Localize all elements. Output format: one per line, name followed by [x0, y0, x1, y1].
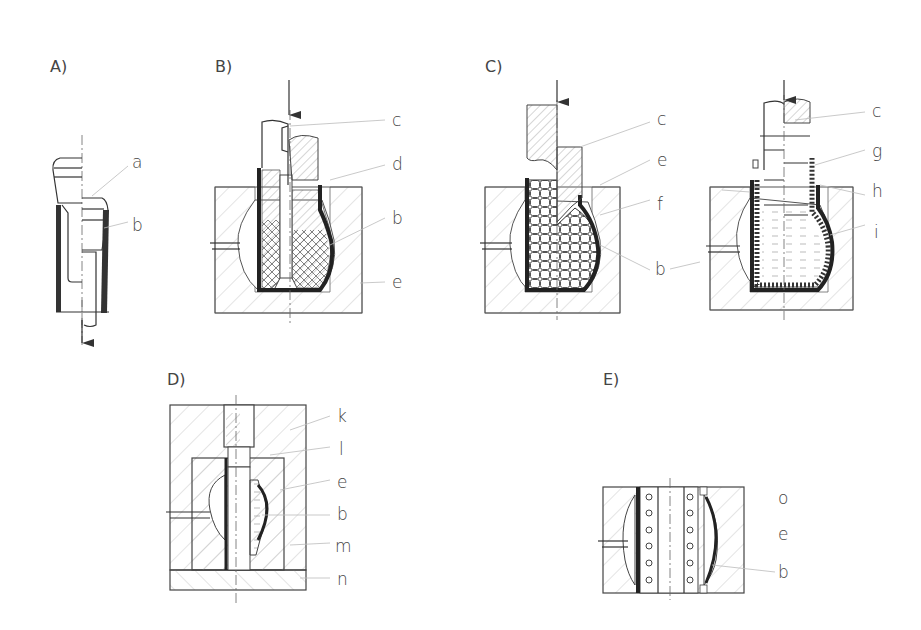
part-label-b: b: [778, 562, 789, 582]
panel-label-a: A): [50, 57, 67, 76]
part-label-k: k: [337, 406, 347, 426]
panel-e: E) o e b: [598, 370, 789, 600]
part-label-b: b: [337, 504, 348, 524]
part-label-c: c: [657, 109, 666, 129]
panel-a: A) a b: [50, 57, 143, 345]
part-label-n: n: [337, 569, 348, 589]
part-label-m: m: [335, 536, 352, 556]
part-label-a: a: [132, 152, 142, 172]
part-label-e: e: [392, 272, 402, 292]
part-label-h: h: [872, 181, 883, 201]
panel-c2: c g h i: [706, 80, 883, 320]
part-label-b: b: [392, 208, 403, 228]
part-label-i: i: [874, 222, 879, 242]
part-label-l: l: [339, 439, 344, 459]
part-label-d: d: [392, 154, 403, 174]
part-label-e: e: [778, 524, 788, 544]
part-label-g: g: [872, 141, 882, 161]
part-label-c: c: [392, 110, 401, 130]
part-label-o: o: [778, 488, 788, 508]
part-label-f: f: [657, 194, 663, 214]
part-label-b: b: [132, 215, 143, 235]
part-label-e: e: [337, 472, 347, 492]
bulge-forming-diagram: A) a b B): [0, 0, 921, 630]
part-label-e: e: [657, 150, 667, 170]
panel-label-e: E): [603, 370, 619, 389]
panel-label-b: B): [215, 57, 232, 76]
panel-d: D) k l e b m n: [166, 370, 352, 605]
panel-label-d: D): [167, 370, 186, 389]
diagram-drawing: A) a b B): [0, 0, 921, 630]
part-label-c: c: [872, 101, 881, 121]
panel-label-c: C): [485, 57, 502, 76]
panel-c1: C) c e f b: [480, 57, 700, 320]
part-label-b: b: [655, 259, 666, 279]
panel-b: B) c d b e: [210, 57, 403, 325]
